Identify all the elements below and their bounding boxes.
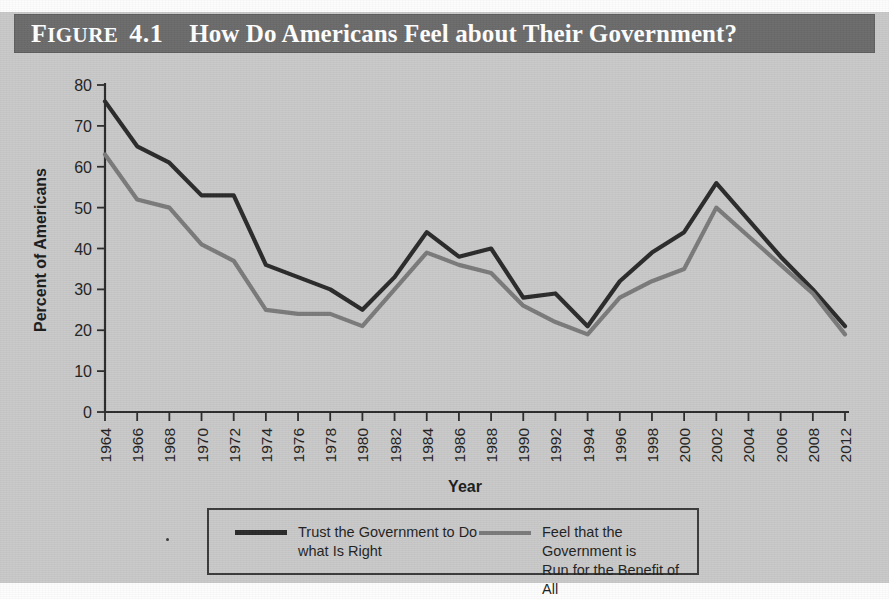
x-tick-label: 1996 [612, 428, 629, 462]
x-tick-label: 1972 [226, 428, 243, 462]
legend-swatch-trust-icon [235, 530, 287, 535]
legend-swatch-benefit-icon [479, 531, 531, 535]
x-tick-label: 1966 [129, 428, 146, 462]
x-tick-label: 1998 [644, 428, 661, 462]
y-tick-label: 70 [74, 118, 92, 135]
series-line-benefit [105, 154, 845, 334]
y-tick-label: 60 [74, 159, 92, 176]
stray-speck [166, 538, 169, 541]
legend-label-benefit: Feel that the Government is Run for the … [542, 523, 697, 599]
x-tick-label: 1964 [97, 428, 114, 463]
figure-container: FIGURE 4.1 How Do Americans Feel about T… [0, 0, 889, 599]
x-tick-label: 1992 [547, 428, 564, 462]
x-tick-label: 1968 [161, 428, 178, 462]
y-tick-label: 10 [74, 363, 92, 380]
x-tick-label: 2008 [805, 428, 822, 462]
x-tick-label: 1988 [483, 428, 500, 462]
y-tick-label: 30 [74, 281, 92, 298]
chart-legend: Trust the Government to Do what Is Right… [207, 508, 699, 575]
x-tick-label: 2002 [708, 428, 725, 462]
x-tick-label: 1974 [258, 428, 275, 463]
x-tick-label: 2004 [740, 428, 757, 463]
y-tick-label: 0 [83, 404, 92, 421]
x-axis: 1964196619681970197219741976197819801982… [97, 412, 854, 462]
x-tick-label: 1978 [322, 428, 339, 462]
x-tick-label: 2000 [676, 428, 693, 463]
series-line-trust [105, 101, 845, 326]
x-tick-label: 1982 [387, 428, 404, 462]
y-tick-label: 50 [74, 200, 92, 217]
y-axis-title: Percent of Americans [32, 168, 49, 332]
legend-label-trust: Trust the Government to Do what Is Right [298, 523, 477, 561]
x-tick-label: 1980 [354, 428, 371, 463]
legend-item-trust[interactable]: Trust the Government to Do what Is Right [235, 523, 477, 561]
x-axis-title: Year [448, 478, 482, 495]
y-tick-label: 20 [74, 322, 92, 339]
x-tick-label: 1990 [515, 428, 532, 463]
x-tick-label: 1976 [290, 428, 307, 462]
x-tick-label: 2006 [773, 428, 790, 462]
y-tick-label: 40 [74, 241, 92, 258]
x-tick-label: 2012 [837, 428, 854, 462]
y-tick-label: 80 [74, 77, 92, 94]
chart-series-group [105, 101, 845, 334]
x-tick-label: 1970 [194, 428, 211, 463]
x-tick-label: 1994 [580, 428, 597, 463]
x-tick-label: 1984 [419, 428, 436, 463]
y-axis: 01020304050607080 [74, 77, 105, 421]
legend-item-benefit[interactable]: Feel that the Government is Run for the … [479, 523, 697, 599]
x-tick-label: 1986 [451, 428, 468, 462]
